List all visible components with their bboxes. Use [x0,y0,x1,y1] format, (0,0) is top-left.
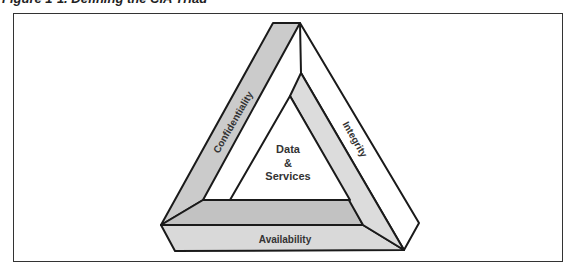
center-label-line-2: & [284,157,292,169]
availability-label: Availability [259,234,312,245]
center-label-line-1: Data [276,143,301,155]
cia-triad-diagram: Confidentiality Integrity Availability D… [0,0,579,271]
center-label-line-3: Services [265,170,310,182]
